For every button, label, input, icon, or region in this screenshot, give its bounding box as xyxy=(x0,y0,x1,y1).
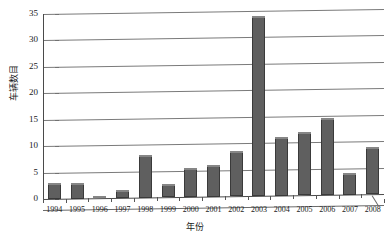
bar-top-face xyxy=(184,168,197,170)
x-tick-label-2008: 2008 xyxy=(358,205,388,214)
bar-top-face xyxy=(230,151,243,153)
bar-2000 xyxy=(184,168,197,197)
bar-2004 xyxy=(275,137,288,195)
bar-top-face xyxy=(71,183,84,185)
bar-top-face xyxy=(321,118,334,120)
bar-2006 xyxy=(321,118,334,195)
y-tick-label-20: 20 xyxy=(16,88,38,97)
x-axis-title: 年份 xyxy=(0,220,390,233)
x-tick-mark-0 xyxy=(43,199,44,203)
y-tick-label-30: 30 xyxy=(16,35,38,44)
y-tick-label-10: 10 xyxy=(16,141,38,150)
bar-top-face xyxy=(48,183,61,185)
x-tick-mark-12 xyxy=(316,195,317,199)
bar-top-face xyxy=(207,165,220,167)
x-tick-mark-1 xyxy=(66,199,67,203)
plot-area xyxy=(43,14,384,199)
bar-2008 xyxy=(366,147,379,195)
x-tick-mark-10 xyxy=(270,196,271,200)
bar-top-face xyxy=(343,173,356,175)
y-tick-label-15: 15 xyxy=(16,115,38,124)
bar-top-face xyxy=(162,184,175,186)
bar-series xyxy=(43,14,384,199)
bar-top-face xyxy=(252,16,265,18)
bar-1999 xyxy=(162,184,175,197)
bar-2005 xyxy=(298,132,311,195)
bar-top-face xyxy=(116,190,129,192)
x-tick-mark-13 xyxy=(339,195,340,199)
y-tick-label-5: 5 xyxy=(16,168,38,177)
bar-2003 xyxy=(252,16,265,196)
bar-top-face xyxy=(275,137,288,139)
x-tick-mark-5 xyxy=(157,197,158,201)
bar-1994 xyxy=(48,183,61,199)
bar-1995 xyxy=(71,183,84,199)
bar-2007 xyxy=(343,173,356,194)
bar-1996 xyxy=(93,196,106,199)
bar-top-face xyxy=(366,147,379,149)
bar-1998 xyxy=(139,155,152,197)
y-tick-label-25: 25 xyxy=(16,62,38,71)
bar-2002 xyxy=(230,151,243,196)
y-tick-label-35: 35 xyxy=(16,9,38,18)
bar-chart: 车辆数目 05101520253035 19941995199619971998… xyxy=(0,0,390,238)
y-axis-tick-labels: 05101520253035 xyxy=(16,0,38,238)
y-tick-label-0: 0 xyxy=(16,194,38,203)
x-tick-mark-7 xyxy=(202,197,203,201)
x-tick-mark-6 xyxy=(179,197,180,201)
x-tick-mark-14 xyxy=(361,194,362,198)
bar-1997 xyxy=(116,190,129,198)
x-tick-mark-end xyxy=(384,199,385,203)
x-tick-mark-2 xyxy=(88,198,89,202)
x-tick-mark-11 xyxy=(293,195,294,199)
x-tick-mark-4 xyxy=(134,198,135,202)
bar-top-face xyxy=(298,132,311,134)
x-tick-mark-9 xyxy=(248,196,249,200)
x-tick-mark-3 xyxy=(111,198,112,202)
bar-top-face xyxy=(139,155,152,157)
bar-top-face xyxy=(93,196,106,198)
bar-2001 xyxy=(207,165,220,197)
x-tick-mark-8 xyxy=(225,196,226,200)
